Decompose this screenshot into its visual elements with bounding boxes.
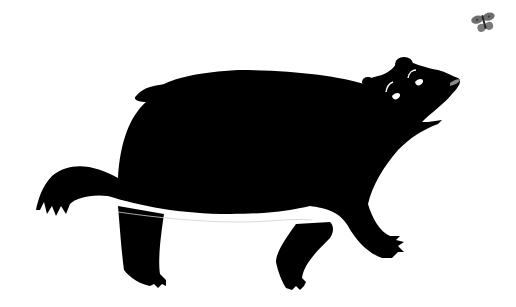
bear-ear-left	[362, 77, 374, 87]
illustration	[0, 0, 516, 307]
bear-ear-right	[395, 57, 413, 71]
